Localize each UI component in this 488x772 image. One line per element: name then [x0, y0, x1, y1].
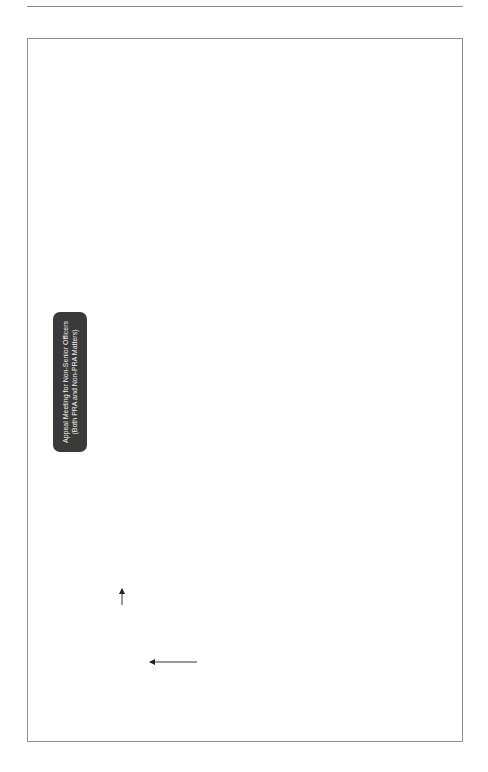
diagram-title: Appeal Meeting for Non-Senior Officers (…: [53, 312, 87, 452]
connector-lines: [27, 38, 463, 742]
flowchart-canvas: Appeal Meeting for Non-Senior Officers (…: [27, 38, 463, 742]
page-header-rule: [27, 6, 463, 7]
